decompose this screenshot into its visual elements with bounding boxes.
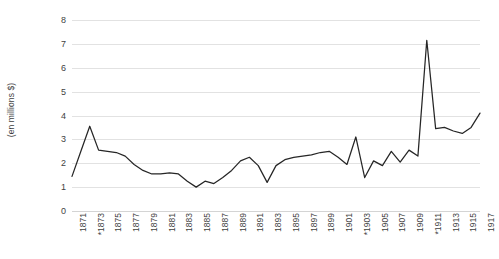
y-axis-title-label: (en millions $) [6, 82, 16, 136]
x-tick-label: *1873 [94, 213, 108, 259]
x-tick-label: 1897 [307, 213, 321, 259]
x-tick-label: 1887 [218, 213, 232, 259]
y-tick-label: 5 [42, 87, 66, 96]
x-tick-label: 1907 [395, 213, 409, 259]
series-polyline [72, 40, 480, 187]
x-tick-label: 1913 [449, 213, 463, 259]
plot-area [72, 20, 480, 211]
y-tick-label: 1 [42, 183, 66, 192]
x-tick-label: 1893 [271, 213, 285, 259]
y-tick-label: 4 [42, 111, 66, 120]
x-tick-label: 1917 [484, 213, 498, 259]
x-tick-label: 1891 [253, 213, 267, 259]
line-chart: (en millions $) 012345678 1871*187318751… [0, 0, 499, 259]
x-tick-label: 1881 [165, 213, 179, 259]
x-tick-label: 1905 [378, 213, 392, 259]
x-tick-label: 1909 [413, 213, 427, 259]
y-tick-label: 6 [42, 63, 66, 72]
x-tick-label: 1877 [129, 213, 143, 259]
series-line [72, 20, 480, 211]
x-tick-label: *1911 [431, 213, 445, 259]
y-axis-title: (en millions $) [0, 0, 22, 219]
y-tick-label: 8 [42, 16, 66, 25]
y-tick-label: 0 [42, 207, 66, 216]
x-tick-label: 1889 [236, 213, 250, 259]
x-tick-label: 1915 [466, 213, 480, 259]
y-tick-label: 2 [42, 159, 66, 168]
x-tick-label: 1871 [76, 213, 90, 259]
x-tick-label: 1883 [182, 213, 196, 259]
x-tick-label: 1885 [200, 213, 214, 259]
x-tick-label: 1879 [147, 213, 161, 259]
x-axis-tick-labels: 1871*18731875187718791881188318851887188… [72, 213, 480, 259]
x-tick-label: 1901 [342, 213, 356, 259]
x-tick-label: 1899 [324, 213, 338, 259]
axis-baseline [72, 211, 480, 212]
y-tick-label: 3 [42, 135, 66, 144]
y-axis-tick-labels: 012345678 [42, 0, 66, 219]
x-tick-label: 1895 [289, 213, 303, 259]
x-tick-label: 1875 [111, 213, 125, 259]
x-tick-label: *1903 [360, 213, 374, 259]
y-tick-label: 7 [42, 39, 66, 48]
